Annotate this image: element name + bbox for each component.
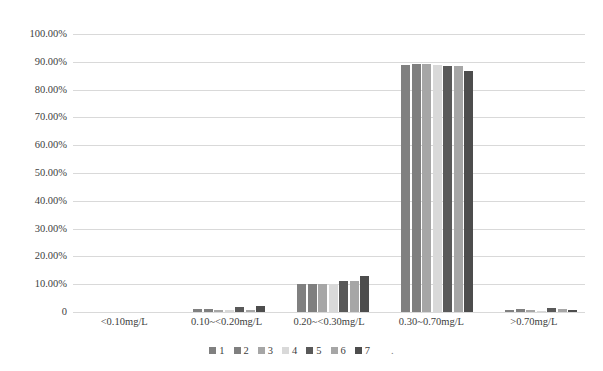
bar[interactable] — [422, 64, 431, 312]
bar-chart: 100.00%90.00%80.00%70.00%60.00%50.00%40.… — [0, 0, 603, 371]
bar[interactable] — [235, 307, 244, 312]
bar[interactable] — [412, 64, 421, 312]
legend-item-7[interactable]: 7 — [355, 345, 370, 356]
y-axis-tick-label: 80.00% — [35, 85, 67, 95]
bar-group — [73, 34, 177, 312]
bar[interactable] — [360, 276, 369, 312]
legend-trailing-text: . — [391, 345, 394, 356]
bar[interactable] — [350, 281, 359, 312]
y-axis-tick-label: 50.00% — [35, 168, 67, 178]
bar[interactable] — [401, 65, 410, 312]
legend-swatch-icon — [234, 347, 241, 354]
bar-group — [281, 34, 385, 312]
bar-groups — [73, 34, 585, 312]
legend-swatch-icon — [209, 347, 216, 354]
bar[interactable] — [318, 284, 327, 312]
y-axis-tick-label: 100.00% — [29, 29, 67, 39]
x-axis-tick-label: 0.20~<0.30mg/L — [278, 316, 380, 327]
legend-swatch-icon — [355, 347, 362, 354]
legend-item-4[interactable]: 4 — [282, 345, 297, 356]
bar[interactable] — [329, 284, 338, 312]
legend-label: 1 — [219, 345, 224, 356]
bar[interactable] — [193, 309, 202, 312]
bar[interactable] — [214, 310, 223, 312]
bar[interactable] — [308, 284, 317, 312]
bar[interactable] — [568, 310, 577, 312]
bar[interactable] — [204, 309, 213, 312]
bar[interactable] — [558, 309, 567, 312]
legend-swatch-icon — [306, 347, 313, 354]
x-axis: <0.10mg/L0.10~<0.20mg/L0.20~<0.30mg/L0.3… — [73, 316, 585, 327]
legend-swatch-icon — [282, 347, 289, 354]
bar[interactable] — [547, 308, 556, 312]
legend-label: 5 — [316, 345, 321, 356]
x-axis-tick-label: >0.70mg/L — [483, 316, 585, 327]
legend-label: 3 — [268, 345, 273, 356]
legend-label: 7 — [365, 345, 370, 356]
y-axis-tick-label: 20.00% — [35, 251, 67, 261]
legend-swatch-icon — [258, 347, 265, 354]
legend-label: 4 — [292, 345, 297, 356]
x-axis-tick-label: 0.30~0.70mg/L — [380, 316, 482, 327]
bar[interactable] — [505, 310, 514, 313]
bar-group — [177, 34, 281, 312]
legend-item-6[interactable]: 6 — [331, 345, 346, 356]
y-axis-tick-label: 0 — [62, 307, 67, 317]
bar[interactable] — [246, 310, 255, 313]
bar-group — [385, 34, 489, 312]
bar[interactable] — [443, 66, 452, 312]
bar[interactable] — [297, 284, 306, 312]
plot-area — [73, 34, 585, 312]
bar[interactable] — [339, 281, 348, 312]
y-axis: 100.00%90.00%80.00%70.00%60.00%50.00%40.… — [0, 34, 67, 312]
bar[interactable] — [225, 310, 234, 312]
legend-label: 2 — [244, 345, 249, 356]
bar[interactable] — [454, 66, 463, 312]
x-axis-tick-label: <0.10mg/L — [73, 316, 175, 327]
bar[interactable] — [433, 65, 442, 312]
legend-item-1[interactable]: 1 — [209, 345, 224, 356]
y-axis-tick-label: 30.00% — [35, 224, 67, 234]
y-axis-tick-label: 40.00% — [35, 196, 67, 206]
bar[interactable] — [256, 306, 265, 312]
bar[interactable] — [537, 311, 546, 312]
y-axis-tick-label: 90.00% — [35, 57, 67, 67]
gridline — [73, 312, 585, 313]
bar-group — [489, 34, 593, 312]
legend-item-5[interactable]: 5 — [306, 345, 321, 356]
y-axis-tick-label: 60.00% — [35, 140, 67, 150]
x-axis-tick-label: 0.10~<0.20mg/L — [175, 316, 277, 327]
legend-label: 6 — [341, 345, 346, 356]
legend-item-2[interactable]: 2 — [234, 345, 249, 356]
bar[interactable] — [526, 310, 535, 312]
y-axis-tick-label: 70.00% — [35, 112, 67, 122]
y-axis-tick-label: 10.00% — [35, 279, 67, 289]
bar[interactable] — [516, 309, 525, 312]
legend-item-3[interactable]: 3 — [258, 345, 273, 356]
chart-legend: 1234567. — [0, 345, 603, 356]
bar[interactable] — [464, 71, 473, 312]
legend-swatch-icon — [331, 347, 338, 354]
